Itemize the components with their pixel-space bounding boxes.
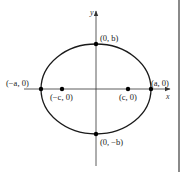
bottom-covertex-point bbox=[94, 132, 98, 136]
ellipse-diagram: y x (0, b) (0, −b) (−a, 0) (a, 0) (−c, 0… bbox=[0, 0, 181, 172]
x-axis-label: x bbox=[165, 92, 170, 101]
left-focus-label: (−c, 0) bbox=[50, 92, 73, 102]
right-focus-label: (c, 0) bbox=[119, 92, 137, 102]
left-vertex-label: (−a, 0) bbox=[6, 78, 29, 88]
right-focus-point bbox=[126, 87, 130, 91]
left-focus-point bbox=[60, 87, 64, 91]
bottom-covertex-label: (0, −b) bbox=[100, 137, 123, 147]
page-border-line bbox=[178, 0, 180, 172]
left-vertex-point bbox=[39, 87, 43, 91]
y-axis-label: y bbox=[89, 8, 94, 17]
top-covertex-label: (0, b) bbox=[100, 33, 119, 43]
right-vertex-label: (a, 0) bbox=[151, 78, 169, 88]
top-covertex-point bbox=[94, 42, 98, 46]
